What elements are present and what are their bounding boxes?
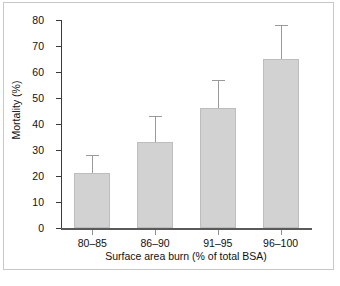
y-tick: [56, 72, 61, 73]
error-bar-stem: [92, 155, 93, 173]
y-tick-label: 10: [4, 196, 44, 208]
error-bar-cap: [275, 25, 288, 26]
bar: [200, 108, 236, 228]
y-tick: [56, 202, 61, 203]
y-tick-label: 20: [4, 170, 44, 182]
y-tick: [56, 124, 61, 125]
baseline-tick: [281, 230, 282, 235]
error-bar-cap: [212, 80, 225, 81]
bar: [263, 59, 299, 228]
y-tick-label: 80: [4, 14, 44, 26]
bar: [74, 173, 110, 228]
y-tick: [56, 150, 61, 151]
bar: [137, 142, 173, 228]
y-tick-label: 30: [4, 144, 44, 156]
error-bar-cap: [149, 116, 162, 117]
x-tick-label: 86–90: [120, 237, 190, 249]
plot-area: 01020304050607080 80–8586–9091–9596–100: [61, 20, 312, 228]
error-bar-stem: [281, 25, 282, 59]
y-tick-label: 60: [4, 66, 44, 78]
x-axis-title: Surface area burn (% of total BSA): [60, 250, 312, 262]
baseline-tick: [218, 230, 219, 235]
y-tick-label: 0: [4, 222, 44, 234]
y-tick: [56, 20, 61, 21]
error-bar-stem: [218, 80, 219, 109]
x-axis-line: [61, 228, 312, 230]
y-tick-label: 70: [4, 40, 44, 52]
y-tick-label: 50: [4, 92, 44, 104]
error-bar-stem: [155, 116, 156, 142]
figure: Mortality (%) Surface area burn (% of to…: [0, 0, 340, 286]
baseline-tick: [155, 230, 156, 235]
y-tick: [56, 176, 61, 177]
y-tick-label: 40: [4, 118, 44, 130]
baseline-tick: [92, 230, 93, 235]
y-axis-line: [61, 20, 62, 229]
y-tick: [56, 98, 61, 99]
error-bar-cap: [86, 155, 99, 156]
y-tick: [56, 46, 61, 47]
x-tick-label: 91–95: [183, 237, 253, 249]
x-tick-label: 96–100: [246, 237, 316, 249]
x-tick-label: 80–85: [57, 237, 127, 249]
y-tick: [56, 228, 61, 229]
